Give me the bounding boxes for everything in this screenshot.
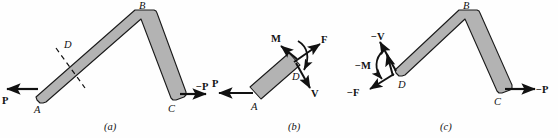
label-point-D-a: D [63,39,72,50]
label-P-a: P [2,95,9,106]
panel-caption-a: (a) [104,121,117,133]
panel-caption-b: (b) [288,121,301,133]
label-V-b: V [311,88,319,99]
label-negP-a: −P [196,81,209,92]
label-point-A-b: A [250,101,258,112]
mechanics-figure: P −P A B C D (a) P M [0,0,558,138]
label-point-C-a: C [168,103,176,114]
panel-a: P −P A B C D (a) [2,0,209,133]
label-negM-c: −M [355,60,371,71]
bar-shape-c [395,10,512,93]
label-negP-c: −P [536,84,549,95]
bar-shape-a [36,10,186,103]
figure-canvas: P −P A B C D (a) P M [0,0,558,138]
label-point-A-a: A [33,104,41,115]
label-negV-c: −V [371,31,385,42]
panel-b: P M F V A D (b) [212,33,327,133]
force-arrow-negF-c [370,74,394,89]
label-point-B-a: B [139,0,146,11]
label-point-D-b: D [291,71,300,82]
label-M-b: M [271,33,281,44]
segment-bar-dbc [395,10,512,93]
label-point-B-c: B [463,0,470,11]
label-point-C-c: C [494,96,502,107]
label-P-b: P [212,78,219,89]
label-negF-c: −F [347,87,359,98]
label-point-D-c: D [397,79,406,90]
panel-c: −V −M −F −P D B C (c) [347,0,549,133]
moment-arc-c [376,51,383,79]
bent-bar-abc [36,10,186,103]
panel-caption-c: (c) [440,121,452,133]
label-F-b: F [321,34,327,45]
